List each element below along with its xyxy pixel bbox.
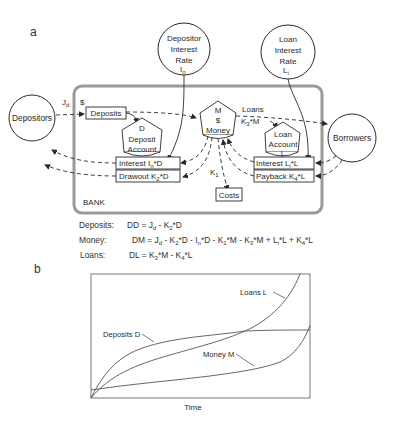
flow-interest-l-to-money [228, 139, 254, 162]
flow-depositors-to-deposits [56, 114, 84, 115]
drawout-box[interactable]: Drawout K2*D [116, 170, 180, 182]
x-axis-label: Time [184, 403, 202, 412]
flow-money-to-costs [218, 138, 228, 190]
loan-account-node[interactable]: Loan Account L [265, 122, 300, 158]
svg-text:Depositor: Depositor [167, 34, 202, 43]
interest-loan-box[interactable]: Interest Li*L [254, 157, 314, 169]
svg-text:Interest: Interest [275, 46, 302, 55]
loan-interest-rate-node[interactable]: Loan Interest Rate Li [261, 25, 315, 79]
svg-text:$: $ [216, 116, 221, 125]
svg-text:Interest In*D: Interest In*D [119, 159, 163, 169]
svg-text:Rate: Rate [176, 56, 193, 65]
svg-text:Money: Money [206, 126, 230, 135]
dollar-label: $ [80, 98, 85, 107]
diagram-canvas: BANK Depositors Borrowers Depositor Inte… [0, 0, 394, 428]
svg-text:Deposits: Deposits [90, 109, 121, 118]
svg-text:M: M [215, 106, 222, 115]
jd-label: Jd [62, 98, 69, 108]
flow-borrowers-to-interest-l [316, 156, 336, 163]
flow-payback-to-money [223, 140, 254, 176]
svg-text:Interest Li*L: Interest Li*L [256, 159, 299, 169]
svg-text:Costs: Costs [219, 191, 239, 200]
flow-money-to-interest-d [181, 136, 208, 163]
svg-text:Account: Account [128, 145, 158, 154]
flow-interest-to-depositors [52, 150, 116, 163]
chart-panel: Deposits D Loans L Money M Time [91, 274, 310, 412]
svg-text:Loan: Loan [279, 35, 297, 44]
svg-text:Payback K4*L: Payback K4*L [256, 172, 306, 182]
money-node[interactable]: M $ Money [200, 101, 236, 139]
svg-text:Loan: Loan [274, 130, 292, 139]
loans-flow-label: Loans [242, 105, 264, 114]
svg-text:Rate: Rate [280, 57, 297, 66]
svg-text:Drawout K2*D: Drawout K2*D [119, 172, 169, 182]
deposits-box[interactable]: Deposits [86, 107, 126, 119]
depositor-rate-link [168, 75, 184, 160]
svg-text:Account: Account [269, 140, 299, 149]
deposits-annotation: Deposits D [103, 330, 141, 339]
flow-deposits-to-money [126, 112, 196, 118]
depositors-node[interactable]: Depositors [9, 95, 55, 141]
loans-annotation: Loans L [240, 288, 267, 297]
interest-deposit-box[interactable]: Interest In*D [116, 157, 180, 169]
flow-money-to-drawout [183, 137, 212, 177]
svg-text:Deposit: Deposit [128, 135, 156, 144]
money-annotation: Money M [203, 350, 234, 359]
svg-text:Depositors: Depositors [12, 113, 52, 123]
svg-text:D: D [139, 124, 145, 133]
deposit-account-node[interactable]: D Deposit Account [122, 118, 162, 156]
depositor-interest-rate-node[interactable]: Depositor Interest Rate In [158, 23, 210, 75]
borrowers-node[interactable]: Borrowers [328, 114, 376, 162]
k1-label: K1 [210, 168, 219, 178]
svg-text:Interest: Interest [171, 45, 198, 54]
bank-label: BANK [83, 198, 105, 207]
costs-box[interactable]: Costs [216, 188, 242, 201]
svg-text:Borrowers: Borrowers [333, 133, 371, 143]
panel-b-label: b [34, 262, 41, 276]
payback-box[interactable]: Payback K4*L [254, 170, 314, 182]
k3m-label: K3*M [241, 117, 260, 127]
flow-drawout-to-depositors [45, 165, 116, 176]
